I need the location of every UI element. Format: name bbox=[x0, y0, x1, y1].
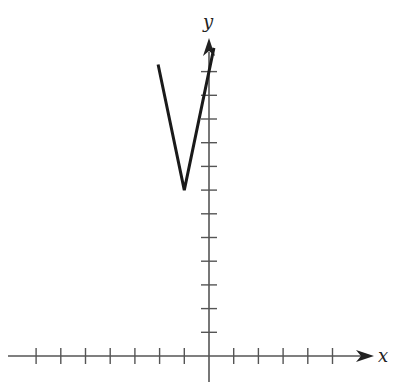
y-axis-label: y bbox=[202, 11, 214, 32]
tick-marks bbox=[36, 72, 332, 364]
x-axis-label: x bbox=[378, 345, 388, 366]
axes bbox=[8, 38, 374, 382]
graph-canvas: x y bbox=[0, 0, 395, 383]
